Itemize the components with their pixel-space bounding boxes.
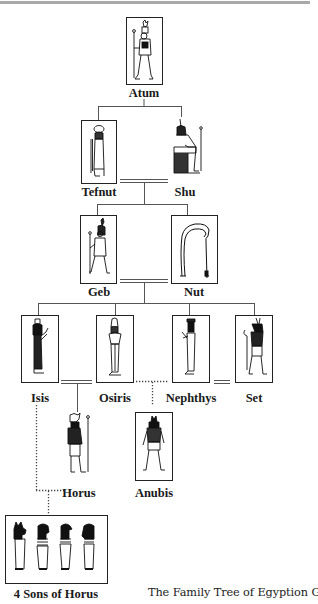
node-nut-box: [171, 215, 218, 284]
node-geb-box: [80, 215, 117, 284]
node-shu-label: Shu: [175, 185, 196, 200]
node-atum-box: [126, 17, 163, 85]
node-anubis-label: Anubis: [135, 486, 173, 501]
node-nephthys-label: Nephthys: [166, 391, 217, 406]
node-atum-label: Atum: [129, 86, 160, 101]
node-set-box: [235, 315, 273, 383]
node-nut-label: Nut: [184, 285, 204, 300]
osiris-figure-icon: [97, 316, 133, 382]
node-set-label: Set: [246, 391, 263, 406]
node-tefnut-box: [81, 120, 117, 184]
node-geb-label: Geb: [88, 285, 110, 300]
node-four-sons-box: [5, 515, 108, 584]
node-isis-box: [21, 315, 59, 383]
shu-figure-icon: [168, 117, 208, 179]
anubis-figure-icon: [136, 413, 172, 480]
node-isis-label: Isis: [31, 391, 49, 406]
isis-figure-icon: [22, 316, 58, 382]
node-tefnut-label: Tefnut: [82, 185, 117, 200]
diagram-caption: The Family Tree of Egyption Gods: [148, 586, 318, 599]
node-four-sons-label: 4 Sons of Horus: [14, 587, 98, 602]
atum-figure-icon: [127, 18, 162, 84]
horus-figure-icon: [60, 412, 96, 480]
nephthys-figure-icon: [173, 316, 209, 382]
node-osiris-box: [96, 315, 134, 383]
geb-figure-icon: [81, 216, 116, 283]
tefnut-figure-icon: [82, 121, 116, 183]
nut-figure-icon: [172, 216, 217, 283]
node-osiris-label: Osiris: [99, 391, 131, 406]
node-anubis-box: [135, 412, 173, 481]
four-sons-figure-icon: [6, 516, 107, 583]
node-nephthys-box: [172, 315, 210, 383]
set-figure-icon: [236, 316, 272, 382]
node-horus-label: Horus: [62, 486, 95, 501]
